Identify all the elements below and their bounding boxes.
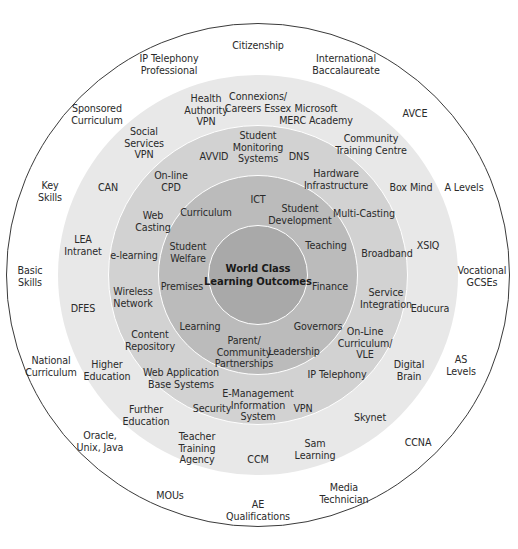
ring-3-label: AVVID xyxy=(200,151,229,163)
ring-4-label: Premises xyxy=(161,281,203,293)
ring-3-label: Wireless Network xyxy=(113,286,152,309)
ring-3-label: E-Management Information System xyxy=(222,388,294,423)
ring-2-label: Higher Education xyxy=(84,359,131,382)
outer-ring-label: AE Qualifications xyxy=(226,499,290,522)
ring-2-label: Digital Brain xyxy=(394,359,424,382)
ring-2-label: Teacher Training Agency xyxy=(178,431,215,466)
ring-4-label: Governors xyxy=(294,321,343,333)
ring-4-label: Curriculum xyxy=(180,207,232,219)
ring-4-label: Parent/ Community Partnerships xyxy=(215,335,274,370)
ring-3-label: On-Line Curriculum/ VLE xyxy=(338,326,393,361)
ring-3-label: Content Repository xyxy=(125,329,175,352)
ring-2-label: LEA Intranet xyxy=(64,234,101,257)
ring-3-label: Hardware Infrastructure xyxy=(304,168,368,191)
ring-3-label: On-line CPD xyxy=(154,170,188,193)
ring-4-label: Finance xyxy=(312,281,348,293)
outer-ring-label: AS Levels xyxy=(446,354,476,377)
outer-ring-label: Media Technician xyxy=(319,482,368,505)
outer-ring-label: National Curriculum xyxy=(25,355,77,378)
ring-3-label: IP Telephony xyxy=(308,369,367,381)
ring-2-label: XSIQ xyxy=(417,240,440,252)
ring-3-label: Student Monitoring Systems xyxy=(233,130,283,165)
ring-3-label: Multi-Casting xyxy=(333,208,395,220)
ring-2-label: Box Mind xyxy=(389,182,432,194)
ring-2-label: Skynet xyxy=(354,412,386,424)
ring-2-label: Sam Learning xyxy=(295,438,336,461)
outer-ring-label: Key Skills xyxy=(38,180,62,203)
ring-2-label: Educura xyxy=(411,303,450,315)
ring-2-label: Further Education xyxy=(123,404,170,427)
ring-2-label: Social Services VPN xyxy=(124,126,164,161)
ring-2-label: Community Training Centre xyxy=(335,133,406,156)
core-label: World Class Learning Outcomes xyxy=(204,262,312,288)
outer-ring-label: International Baccalaureate xyxy=(312,53,379,76)
ring-3-label: e-learning xyxy=(110,250,158,262)
ring-4-label: Leadership xyxy=(268,346,320,358)
ring-4-label: ICT xyxy=(250,194,265,206)
ring-3-label: Web Casting xyxy=(135,210,170,233)
ring-4-label: Teaching xyxy=(305,240,346,252)
outer-ring-label: Vocational GCSEs xyxy=(458,265,507,288)
ring-2-label: Health Authority VPN xyxy=(184,93,228,128)
outer-ring-label: A Levels xyxy=(444,182,483,194)
ring-4-label: Learning xyxy=(180,321,221,333)
outer-ring-label: Sponsored Curriculum xyxy=(71,103,123,126)
ring-4-label: Student Welfare xyxy=(169,241,206,264)
ring-3-label: DNS xyxy=(289,151,309,163)
ring-2-label: CAN xyxy=(98,182,118,194)
ring-3-label: Broadband xyxy=(361,248,412,260)
ring-3-label: Service Integration xyxy=(360,287,412,310)
ring-2-label: DFES xyxy=(71,303,96,315)
outer-ring-label: Citizenship xyxy=(232,40,284,52)
outer-ring-label: IP Telephony Professional xyxy=(140,53,199,76)
ring-3-label: VPN xyxy=(293,403,312,415)
concentric-ring-diagram: World Class Learning Outcomes Citizenshi… xyxy=(0,0,518,549)
outer-ring-label: CCNA xyxy=(405,437,432,449)
ring-2-label: CCM xyxy=(247,454,268,466)
ring-4-label: Student Development xyxy=(268,203,332,226)
ring-2-label: Microsoft MERC Academy xyxy=(279,103,353,126)
outer-ring-label: Oracle, Unix, Java xyxy=(77,430,124,453)
ring-3-label: Web Application Base Systems xyxy=(143,367,219,390)
outer-ring-label: MOUs xyxy=(156,490,183,502)
outer-ring-label: Basic Skills xyxy=(18,265,43,288)
outer-ring-label: AVCE xyxy=(403,108,428,120)
